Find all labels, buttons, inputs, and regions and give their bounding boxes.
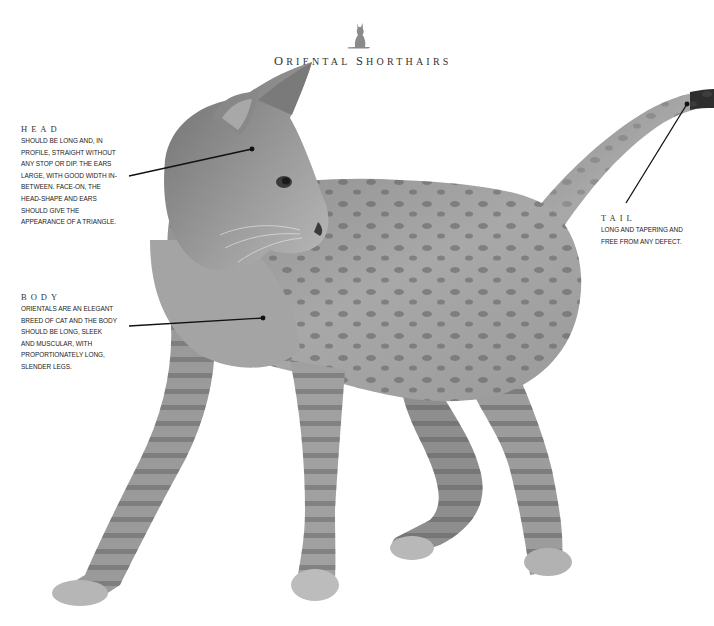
annotation-body-label: BODY [21, 292, 128, 303]
annotation-tail-label: TAIL [601, 213, 692, 224]
annotation-body: BODY ORIENTALS ARE AN ELEGANT BREED OF C… [21, 292, 128, 373]
annotation-head: HEAD SHOULD BE LONG AND, IN PROFILE, STR… [21, 124, 128, 228]
annotation-head-text: SHOULD BE LONG AND, IN PROFILE, STRAIGHT… [21, 135, 117, 228]
annotation-tail-text: LONG AND TAPERING AND FREE FROM ANY DEFE… [601, 224, 683, 247]
annotation-tail: TAIL LONG AND TAPERING AND FREE FROM ANY… [601, 213, 692, 247]
annotation-body-text: ORIENTALS ARE AN ELEGANT BREED OF CAT AN… [21, 303, 117, 373]
annotation-head-label: HEAD [21, 124, 128, 135]
